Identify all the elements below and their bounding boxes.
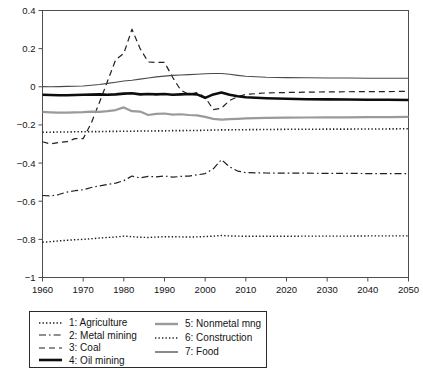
x-tick-label: 1970 <box>73 284 94 295</box>
x-tick-label: 1980 <box>113 284 134 295</box>
legend-label: 4: Oil mining <box>69 355 125 366</box>
legend-entry[interactable]: 3: Coal <box>38 342 154 354</box>
legend-line-swatch <box>154 319 179 329</box>
series-lines <box>43 29 409 242</box>
x-tick-label: 2040 <box>357 284 378 295</box>
legend-label: 7: Food <box>185 346 219 357</box>
y-tick-label: 0.4 <box>22 5 35 16</box>
y-axis-tick-labels: 0.40.20−0.2−0.4−0.6−0.8−1 <box>17 5 36 283</box>
legend-label: 1: Agriculture <box>69 317 127 328</box>
y-tick-label: −0.8 <box>17 234 36 245</box>
y-tick-label: −0.2 <box>17 119 36 130</box>
legend-label: 5: Nonmetal mng <box>185 318 261 329</box>
series-line-agriculture <box>43 236 409 243</box>
series-line-oil_mining <box>43 93 409 100</box>
x-tick-label: 2050 <box>398 284 419 295</box>
y-tick-label: −1 <box>25 272 36 283</box>
plot-area-frame <box>43 11 409 278</box>
legend-line-swatch <box>154 333 179 343</box>
y-tick-label: 0.2 <box>22 43 35 54</box>
legend-entry[interactable]: 4: Oil mining <box>38 355 154 367</box>
legend-label: 6: Construction <box>185 332 252 343</box>
legend-line-swatch <box>38 355 63 365</box>
legend-entry[interactable]: 6: Construction <box>154 331 266 344</box>
series-line-nonmetal_mining <box>43 107 409 119</box>
series-line-coal <box>43 29 409 144</box>
series-line-construction <box>43 129 409 132</box>
chart-legend: 1: Agriculture2: Metal mining3: Coal4: O… <box>29 311 267 368</box>
chart-figure: 0.40.20−0.2−0.4−0.6−0.8−1 19601970198019… <box>0 0 423 386</box>
legend-entry[interactable]: 5: Nonmetal mng <box>154 317 266 330</box>
legend-line-swatch <box>38 343 63 353</box>
x-tick-label: 2020 <box>276 284 297 295</box>
y-tick-label: −0.4 <box>17 158 36 169</box>
axis-tick-marks <box>39 11 409 282</box>
legend-columns: 1: Agriculture2: Metal mining3: Coal4: O… <box>30 312 266 367</box>
x-tick-label: 1960 <box>32 284 53 295</box>
legend-entry[interactable]: 7: Food <box>154 345 266 358</box>
legend-line-swatch <box>38 318 63 328</box>
series-line-food <box>43 73 409 86</box>
legend-label: 2: Metal mining <box>69 330 137 341</box>
x-tick-label: 1990 <box>154 284 175 295</box>
x-tick-label: 2000 <box>195 284 216 295</box>
y-tick-label: −0.6 <box>17 196 36 207</box>
x-axis-tick-labels: 1960197019801990200020102020203020402050 <box>32 284 419 295</box>
legend-line-swatch <box>38 330 63 340</box>
legend-column: 1: Agriculture2: Metal mining3: Coal4: O… <box>38 317 154 367</box>
legend-entry[interactable]: 1: Agriculture <box>38 317 154 329</box>
legend-column: 5: Nonmetal mng6: Construction7: Food <box>154 317 266 367</box>
series-line-metal_mining <box>43 160 409 196</box>
legend-label: 3: Coal <box>69 342 101 353</box>
legend-line-swatch <box>154 347 179 357</box>
legend-entry[interactable]: 2: Metal mining <box>38 330 154 342</box>
x-tick-label: 2030 <box>317 284 338 295</box>
y-tick-label: 0 <box>30 81 35 92</box>
x-tick-label: 2010 <box>235 284 256 295</box>
